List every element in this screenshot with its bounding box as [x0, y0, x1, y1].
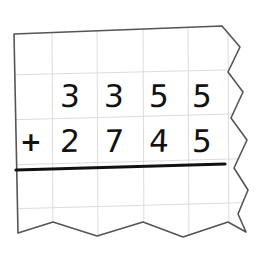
worksheet-scrap: + 3 3 5 5 2 7 4 5: [0, 0, 273, 262]
paper-fill: [0, 0, 273, 262]
paper-body: [0, 0, 273, 262]
paper-graphic: [0, 0, 273, 262]
